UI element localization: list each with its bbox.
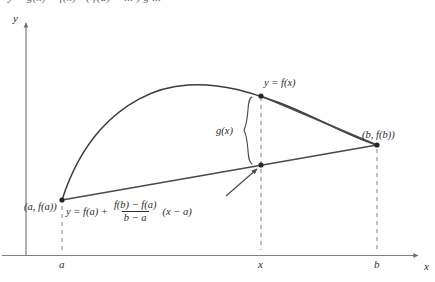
function-curve xyxy=(62,85,377,200)
secant-line xyxy=(62,145,377,200)
upper-chord-segment xyxy=(261,96,377,145)
secant-equation-trailing: (x − a) xyxy=(163,207,192,218)
point-b-marker xyxy=(374,142,379,147)
x-tick-label-x: x xyxy=(258,259,263,270)
label-point-b: (b, f(b)) xyxy=(362,130,395,141)
pointer-arrow-secant-point xyxy=(226,169,257,196)
point-curve-at-x-marker xyxy=(258,93,263,98)
label-curve-equation: y = f(x) xyxy=(264,78,296,89)
secant-equation-fraction: f(b) − f(a) b − a xyxy=(112,200,159,224)
secant-equation-denominator: b − a xyxy=(122,211,149,224)
mean-value-theorem-diagram xyxy=(0,0,435,282)
x-tick-label-b: b xyxy=(374,259,380,270)
brace-gx xyxy=(244,97,252,164)
secant-equation-numerator: f(b) − f(a) xyxy=(112,200,159,212)
label-g-of-x: g(x) xyxy=(216,126,233,137)
label-point-a: (a, f(a)) xyxy=(24,202,57,213)
secant-equation-lead: y = f(a) + xyxy=(66,207,108,218)
y-axis-label: y xyxy=(13,13,18,24)
label-secant-equation: y = f(a) + f(b) − f(a) b − a (x − a) xyxy=(66,200,192,224)
x-axis-label: x xyxy=(424,261,429,272)
point-a-marker xyxy=(59,197,64,202)
figure-canvas: y = g(x) = f(x) - ( f(a) + ... ) g ... xyxy=(0,0,435,282)
point-secant-at-x-marker xyxy=(258,162,263,167)
x-tick-label-a: a xyxy=(59,259,65,270)
